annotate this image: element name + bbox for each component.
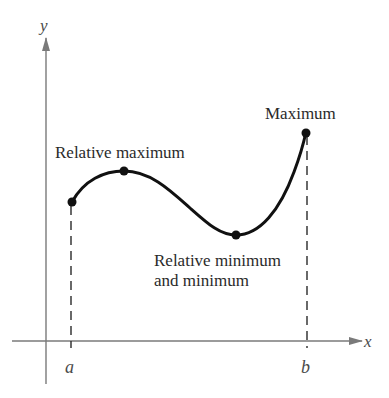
interval-end-label: b (301, 357, 310, 377)
endpoint-a-point (68, 198, 77, 207)
extrema-diagram: y x a b Relative maximum Maximum Relativ… (0, 0, 389, 398)
relative-maximum-point (120, 167, 129, 176)
y-axis-label: y (38, 16, 48, 35)
interval-start-label: a (65, 357, 74, 377)
relative-minimum-label-line2: and minimum (154, 271, 249, 290)
relative-minimum-label-line1: Relative minimum (154, 251, 281, 270)
relative-minimum-point (232, 231, 241, 240)
relative-maximum-label: Relative maximum (55, 143, 185, 162)
maximum-label: Maximum (265, 104, 336, 123)
absolute-maximum-point (302, 129, 311, 138)
x-axis-label: x (363, 332, 372, 351)
